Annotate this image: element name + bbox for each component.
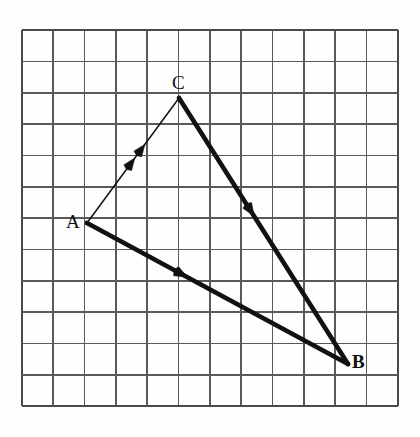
vector-diagram-figure: A B C (0, 0, 420, 437)
vector-layer (85, 96, 350, 366)
vector-CB (179, 98, 348, 364)
vertex-label-a: A (66, 212, 80, 231)
vector-AC (87, 98, 179, 223)
vertex-point-a (85, 221, 89, 225)
vertex-point-c (177, 96, 181, 100)
vector-CB-shaft (179, 98, 348, 364)
vertex-label-b: B (352, 352, 365, 371)
vector-AC-arrowhead (124, 158, 135, 171)
vector-AB-arrowhead (174, 267, 188, 278)
vertex-label-c: C (172, 73, 185, 92)
vertex-point-b (346, 362, 350, 366)
